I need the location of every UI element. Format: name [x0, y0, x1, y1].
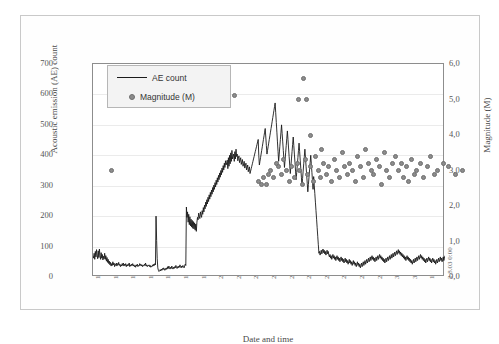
scatter-point	[371, 172, 376, 177]
scatter-point	[313, 154, 318, 159]
y-tick-label: 300	[13, 181, 53, 190]
chart-legend: AE count Magnitude (M)	[107, 65, 231, 108]
secondary-y-tick-label: 1,0	[449, 237, 489, 246]
legend-label-magnitude: Magnitude (M)	[140, 92, 195, 102]
scatter-point	[453, 172, 458, 177]
scatter-point	[308, 133, 313, 138]
scatter-point	[301, 76, 306, 81]
secondary-y-tick-label: 4,0	[449, 130, 489, 139]
scatter-point	[329, 179, 334, 184]
secondary-y-tick-label: 6,0	[449, 59, 489, 68]
scatter-point	[345, 172, 350, 177]
scatter-point	[295, 161, 300, 166]
y-tick-label: 0	[13, 272, 53, 281]
scatter-point	[259, 182, 264, 187]
y-tick-label: 200	[13, 211, 53, 220]
secondary-y-tick-label: 2,0	[449, 201, 489, 210]
scatter-point	[399, 161, 404, 166]
scatter-point	[361, 175, 366, 180]
line-swatch-icon	[117, 77, 147, 78]
scatter-point	[418, 161, 423, 166]
y-tick-label: 500	[13, 120, 53, 129]
figure-border: Acoustic emission (AE) count Magnitude (…	[20, 15, 480, 310]
dot-swatch-icon	[129, 94, 135, 100]
scatter-point	[303, 157, 308, 162]
scatter-point	[396, 168, 401, 173]
scatter-point	[311, 179, 316, 184]
secondary-y-axis-title: Magnitude (M)	[482, 45, 492, 205]
x-tick-label: 2.8.03 0:00	[447, 268, 454, 279]
y-tick-label: 700	[13, 59, 53, 68]
scatter-point	[390, 161, 395, 166]
legend-item-magnitude: Magnitude (M)	[108, 88, 230, 105]
scatter-point	[332, 157, 337, 162]
y-tick-label: 100	[13, 242, 53, 251]
scatter-point	[340, 150, 345, 155]
scatter-point	[441, 161, 446, 166]
secondary-y-tick-label: 0,0	[449, 272, 489, 281]
scatter-point	[271, 175, 276, 180]
y-tick-label: 400	[13, 150, 53, 159]
legend-item-ae-count: AE count	[108, 69, 230, 86]
scatter-point	[321, 161, 326, 166]
scatter-point	[305, 172, 310, 177]
scatter-point	[366, 161, 371, 166]
y-axis-title: Acoustic emission (AE) count	[49, 0, 59, 199]
scatter-point	[337, 175, 342, 180]
x-axis-title: Date and time	[92, 334, 444, 344]
y-tick-label: 600	[13, 89, 53, 98]
scatter-point	[316, 168, 321, 173]
secondary-y-tick-label: 5,0	[449, 95, 489, 104]
legend-label-ae-count: AE count	[152, 73, 187, 83]
scatter-point	[287, 179, 292, 184]
scatter-point	[279, 172, 284, 177]
scatter-point	[353, 179, 358, 184]
scatter-point	[324, 172, 329, 177]
scatter-point	[109, 168, 114, 173]
